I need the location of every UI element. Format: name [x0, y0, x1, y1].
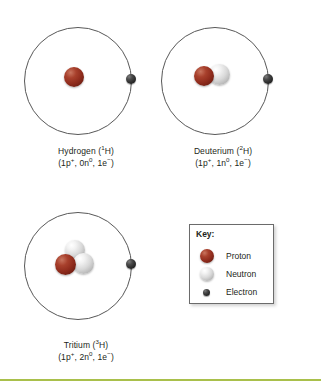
atom-tritium-orbit-area [16, 207, 156, 331]
key-item-neutron: Neutron [190, 265, 275, 283]
atom-name-line: Hydrogen (1H) [16, 146, 156, 158]
atom-composition-line: (1p+, 0n0, 1e−) [16, 158, 156, 170]
atom-hydrogen-orbit-area [16, 22, 156, 146]
atom-deuterium-orbit-area [153, 22, 293, 146]
neutron-sphere [73, 253, 94, 274]
key-label-neutron: Neutron [226, 269, 256, 279]
neutron-sphere-icon [200, 267, 214, 281]
proton-sphere [64, 67, 84, 87]
key-swatch-neutron-cell [199, 265, 219, 283]
atom-composition-line: (1p+, 1n0, 1e−) [153, 158, 293, 170]
key-label-electron: Electron [226, 287, 257, 297]
key-swatch-proton-cell [199, 247, 219, 265]
key-item-electron: Electron [190, 283, 275, 301]
atom-name-line: Deuterium (2H) [153, 146, 293, 158]
atom-deuterium: Deuterium (2H) (1p+, 1n0, 1e−) [153, 22, 293, 169]
electron-sphere [126, 259, 136, 269]
proton-sphere [194, 66, 214, 86]
atom-hydrogen: Hydrogen (1H) (1p+, 0n0, 1e−) [16, 22, 156, 169]
proton-sphere-icon [200, 249, 214, 263]
electron-sphere [263, 74, 273, 84]
atom-hydrogen-caption: Hydrogen (1H) (1p+, 0n0, 1e−) [16, 146, 156, 169]
atom-deuterium-caption: Deuterium (2H) (1p+, 1n0, 1e−) [153, 146, 293, 169]
atom-composition-line: (1p+, 2n0, 1e−) [16, 352, 156, 364]
atom-tritium: Tritium (3H) (1p+, 2n0, 1e−) [16, 207, 156, 363]
key-swatch-electron-cell [199, 283, 219, 301]
proton-sphere [55, 254, 76, 275]
key-item-proton: Proton [190, 247, 275, 265]
atom-tritium-caption: Tritium (3H) (1p+, 2n0, 1e−) [16, 340, 156, 363]
atom-name-line: Tritium (3H) [16, 340, 156, 352]
bottom-rule-divider [0, 379, 321, 381]
key-title: Key: [196, 229, 214, 239]
electron-sphere-icon [203, 289, 210, 296]
key-label-proton: Proton [226, 251, 251, 261]
electron-sphere [126, 74, 136, 84]
key-legend-box: Key: Proton Neutron Electron [189, 224, 274, 304]
isotopes-diagram: Hydrogen (1H) (1p+, 0n0, 1e−) Deuterium … [0, 0, 321, 391]
